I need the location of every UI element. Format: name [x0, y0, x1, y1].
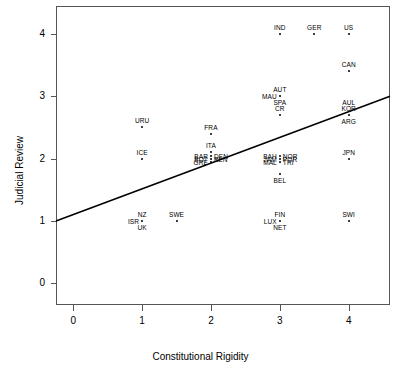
- x-axis-title: Constitutional Rigidity: [0, 351, 401, 362]
- x-tick-mark: [142, 305, 143, 311]
- data-point: [176, 220, 178, 222]
- scatter-plot: INDGERUSCANAUTMAUAULKORARGSPACRURUFRAITA…: [0, 0, 401, 368]
- data-point-label: US: [344, 24, 353, 31]
- y-tick-label: 0: [25, 277, 45, 288]
- x-tick-label: 0: [63, 315, 83, 326]
- data-point-label: NET: [273, 224, 286, 231]
- data-point-label: GRE: [194, 158, 208, 165]
- y-tick-mark: [51, 34, 56, 35]
- data-point-label: ARG: [341, 118, 355, 125]
- data-point-label: ITA: [206, 142, 216, 149]
- data-point: [279, 161, 281, 163]
- data-point: [279, 33, 281, 35]
- data-point: [348, 33, 350, 35]
- x-tick-mark: [349, 305, 350, 311]
- x-tick-label: 1: [132, 315, 152, 326]
- x-tick-mark: [280, 305, 281, 311]
- y-tick-label: 3: [25, 90, 45, 101]
- data-point-label: URU: [135, 117, 149, 124]
- x-tick-label: 3: [270, 315, 290, 326]
- data-point-label: IND: [274, 24, 286, 31]
- data-point-label: CR: [275, 105, 285, 112]
- data-point-label: ICE: [137, 149, 148, 156]
- data-point: [210, 155, 212, 157]
- data-point-label: MAL: [263, 158, 277, 165]
- data-point-label: GER: [307, 24, 321, 31]
- y-tick-label: 4: [25, 28, 45, 39]
- data-point: [141, 158, 143, 160]
- x-tick-label: 2: [201, 315, 221, 326]
- y-tick-mark: [51, 96, 56, 97]
- x-tick-mark: [211, 305, 212, 311]
- y-tick-mark: [51, 159, 56, 160]
- data-point: [210, 158, 212, 160]
- data-point: [210, 161, 212, 163]
- data-point: [141, 220, 143, 222]
- y-tick-label: 2: [25, 153, 45, 164]
- data-point-label: BEN: [214, 155, 228, 162]
- x-tick-label: 4: [339, 315, 359, 326]
- data-point: [348, 114, 350, 116]
- y-tick-mark: [51, 221, 56, 222]
- data-point-label: SWI: [342, 211, 355, 218]
- data-point: [279, 158, 281, 160]
- data-point: [348, 158, 350, 160]
- data-point-label: SWE: [169, 211, 184, 218]
- y-tick-label: 1: [25, 215, 45, 226]
- data-point: [279, 220, 281, 222]
- y-axis-title: Judicial Review: [14, 106, 25, 236]
- data-point-label: UK: [137, 224, 146, 231]
- data-point: [279, 114, 281, 116]
- x-tick-mark: [73, 305, 74, 311]
- data-point-label: KOR: [341, 105, 355, 112]
- data-point-label: FRA: [204, 124, 217, 131]
- data-point-label: TRI: [283, 158, 294, 165]
- y-tick-mark: [51, 283, 56, 284]
- data-point-label: CAN: [342, 61, 356, 68]
- data-point-label: BEL: [274, 177, 287, 184]
- data-point: [279, 155, 281, 157]
- data-point: [348, 220, 350, 222]
- data-point-label: JPN: [342, 149, 355, 156]
- data-point: [210, 133, 212, 135]
